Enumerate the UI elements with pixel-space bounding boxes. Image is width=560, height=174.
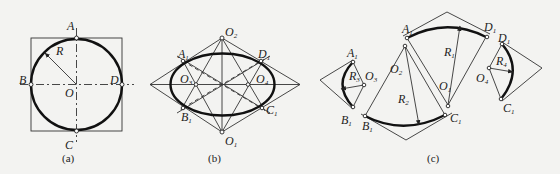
point-o4-right bbox=[487, 66, 491, 70]
label-b1-mid: B1 bbox=[362, 119, 373, 134]
label-r3: R3 bbox=[348, 69, 360, 84]
label-a1-left: A1 bbox=[346, 46, 358, 61]
label-o1: O1 bbox=[225, 134, 237, 149]
caption-a: (a) bbox=[62, 152, 75, 165]
label-b: B bbox=[19, 73, 27, 87]
label-c: C bbox=[65, 138, 74, 152]
panel-a: A B D O C R (a) bbox=[19, 19, 134, 165]
label-r1: R1 bbox=[443, 45, 455, 60]
panel-b: O2 O1 A1 D1 B1 C1 O3 O4 (b) bbox=[150, 25, 300, 165]
point-b bbox=[29, 83, 33, 87]
point-o2 bbox=[220, 36, 224, 40]
point-d bbox=[120, 83, 124, 87]
label-b1: B1 bbox=[181, 110, 192, 125]
label-d1: D1 bbox=[257, 47, 270, 62]
point-c1-mid bbox=[443, 113, 447, 117]
label-c1-mid: C1 bbox=[450, 111, 462, 126]
point-a bbox=[75, 36, 79, 40]
point-c1 bbox=[260, 106, 264, 110]
label-a1-mid: A1 bbox=[401, 22, 413, 37]
line-o3-b1 bbox=[353, 85, 364, 107]
label-o4: O4 bbox=[256, 72, 269, 87]
label-o3-left: O3 bbox=[365, 69, 378, 84]
radius-arrow-r4 bbox=[489, 68, 513, 72]
line-o4-c1 bbox=[489, 68, 501, 99]
arc-r1 bbox=[407, 27, 486, 38]
label-d: D bbox=[109, 73, 119, 87]
caption-b: (b) bbox=[208, 152, 221, 165]
panel-c: A1 R3 O3 B1 A1 D1 R1 O1 O2 R2 B1 C1 bbox=[320, 12, 542, 165]
label-c1: C1 bbox=[266, 103, 278, 118]
label-o1-mid: O1 bbox=[439, 79, 451, 94]
label-r2: R2 bbox=[397, 92, 409, 107]
label-o2: O2 bbox=[225, 25, 238, 40]
label-a: A bbox=[66, 19, 75, 33]
point-b1-left bbox=[351, 105, 355, 109]
point-a1-mid bbox=[405, 36, 409, 40]
point-d1-mid bbox=[485, 35, 489, 39]
point-o4 bbox=[246, 83, 250, 87]
label-o2-mid: O2 bbox=[390, 62, 403, 77]
caption-c: (c) bbox=[427, 152, 440, 165]
label-d1-mid: D1 bbox=[483, 20, 496, 35]
point-o3-left bbox=[362, 83, 366, 87]
ellipse-construction-diagram: A B D O C R (a) O2 O1 A1 D1 bbox=[0, 0, 560, 174]
label-a1: A1 bbox=[177, 47, 189, 62]
point-o2-mid bbox=[403, 44, 407, 48]
label-c1-right: C1 bbox=[503, 101, 515, 116]
label-b1-left: B1 bbox=[341, 113, 352, 128]
point-o1-mid bbox=[446, 104, 450, 108]
radius-arrow-r3 bbox=[341, 85, 364, 89]
label-r: R bbox=[55, 44, 64, 58]
line-a1-o1 bbox=[407, 38, 448, 105]
line-o1-d1 bbox=[222, 59, 264, 132]
label-o4-right: O4 bbox=[476, 71, 489, 86]
point-b1-mid bbox=[363, 114, 367, 118]
point-c bbox=[75, 129, 79, 133]
point-o1 bbox=[220, 130, 224, 134]
label-r4: R4 bbox=[495, 54, 507, 69]
label-d1-right: D1 bbox=[497, 31, 510, 46]
label-o: O bbox=[65, 86, 74, 100]
point-o3 bbox=[194, 83, 198, 87]
